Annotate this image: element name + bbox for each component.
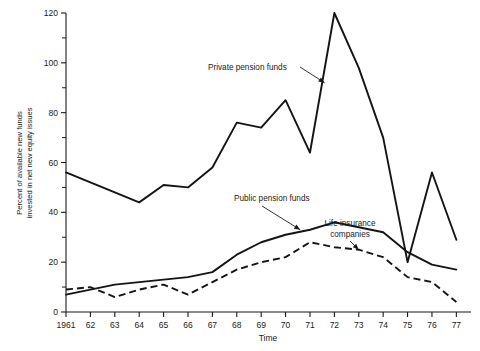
x-tick-label: 73	[354, 320, 364, 330]
y-tick-label: 40	[49, 207, 59, 217]
x-tick-label: 71	[305, 320, 315, 330]
x-tick-label: 76	[427, 320, 437, 330]
annotation-arrow-public	[294, 225, 300, 230]
y-axis-title-line1: Percent of available new funds	[15, 111, 24, 215]
x-axis-ticks	[66, 312, 456, 317]
x-tick-label: 65	[159, 320, 169, 330]
y-tick-label: 100	[44, 58, 58, 68]
y-axis-tick-labels: 020406080100120	[44, 8, 58, 317]
annotation-private-pension-funds: Private pension funds	[208, 63, 325, 83]
x-tick-label: 70	[281, 320, 291, 330]
y-axis-ticks	[61, 13, 66, 312]
x-tick-label: 1961	[57, 320, 76, 330]
x-tick-label: 66	[183, 320, 193, 330]
x-tick-label: 68	[232, 320, 242, 330]
series-line-public-pension-funds	[66, 222, 456, 294]
data-series-group	[66, 13, 456, 302]
annotation-label-life-line1: Life insurance	[325, 219, 376, 228]
x-tick-label: 62	[86, 320, 96, 330]
series-line-life-insurance-companies	[66, 242, 456, 302]
annotation-leader-public	[262, 206, 300, 230]
y-tick-label: 60	[49, 158, 59, 168]
annotation-public-pension-funds: Public pension funds	[234, 194, 310, 230]
chart-figure: 020406080100120 196162636465666768697071…	[0, 0, 480, 351]
x-tick-label: 67	[208, 320, 218, 330]
annotation-life-insurance-companies: Life insurance companies	[325, 219, 376, 250]
x-axis-title: Time	[259, 333, 278, 343]
y-tick-label: 20	[49, 257, 59, 267]
x-tick-label: 63	[110, 320, 120, 330]
x-axis-tick-labels: 196162636465666768697071727374757677	[57, 320, 462, 330]
y-axis-title-line2: invested in net new equity issues	[25, 107, 34, 218]
y-tick-label: 80	[49, 108, 59, 118]
axes	[66, 13, 471, 312]
y-tick-label: 120	[44, 8, 58, 18]
x-tick-label: 72	[330, 320, 340, 330]
annotation-label-public: Public pension funds	[234, 194, 310, 203]
y-axis-title: Percent of available new funds invested …	[15, 107, 34, 218]
annotation-label-life-line2: companies	[330, 230, 370, 239]
annotation-label-private: Private pension funds	[208, 63, 287, 72]
line-chart-svg: 020406080100120 196162636465666768697071…	[0, 0, 480, 351]
x-tick-label: 74	[378, 320, 388, 330]
y-tick-label: 0	[53, 307, 58, 317]
x-tick-label: 75	[403, 320, 413, 330]
x-tick-label: 77	[452, 320, 462, 330]
x-tick-label: 69	[256, 320, 266, 330]
series-line-private-pension-funds	[66, 13, 456, 262]
x-tick-label: 64	[134, 320, 144, 330]
